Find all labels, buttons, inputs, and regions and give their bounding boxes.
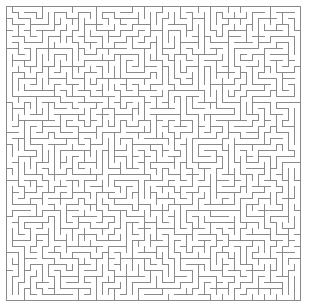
maze-figure: [0, 0, 309, 307]
maze-canvas: [0, 0, 309, 307]
